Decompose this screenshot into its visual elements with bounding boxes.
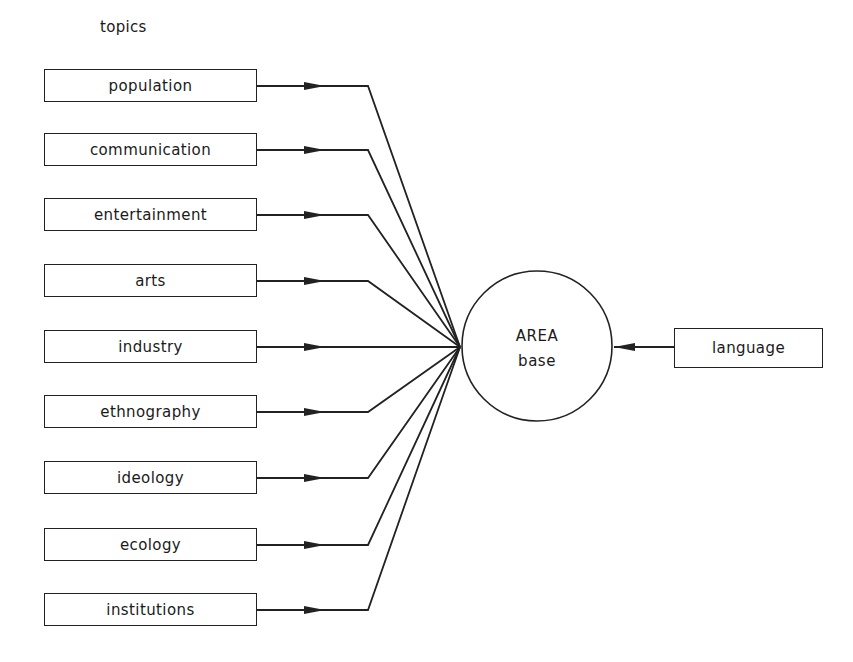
connector-line [257,150,460,347]
topic-label: ideology [117,469,184,487]
topic-label: communication [90,141,211,159]
topic-label: population [109,77,193,95]
arrow-right-icon [304,82,325,90]
arrow-left-icon [614,343,635,351]
arrow-right-icon [304,277,325,285]
arrow-right-icon [304,146,325,154]
topic-box-arts[interactable]: arts [44,264,257,297]
connector-line [257,86,460,347]
topic-box-ecology[interactable]: ecology [44,528,257,561]
topic-label: ethnography [100,403,201,421]
topic-box-population[interactable]: population [44,69,257,102]
hub-label-base: base [487,352,587,370]
arrow-right-icon [304,211,325,219]
connector-line [257,347,460,545]
topic-box-entertainment[interactable]: entertainment [44,198,257,231]
area-base-circle[interactable] [462,271,612,421]
topic-box-institutions[interactable]: institutions [44,593,257,626]
topic-label: arts [135,272,166,290]
topic-box-ethnography[interactable]: ethnography [44,395,257,428]
connector-line [257,347,460,412]
arrow-right-icon [304,541,325,549]
connector-line [257,281,460,347]
topic-label: ecology [120,536,181,554]
language-label: language [712,339,785,357]
topic-label: entertainment [94,206,207,224]
topic-label: industry [118,338,183,356]
arrow-right-icon [304,343,325,351]
topic-box-industry[interactable]: industry [44,330,257,363]
topics-heading: topics [100,18,147,36]
language-box[interactable]: language [674,328,823,368]
arrow-right-icon [304,474,325,482]
arrow-right-icon [304,408,325,416]
hub-label-area: AREA [487,327,587,345]
arrow-right-icon [304,606,325,614]
topic-box-ideology[interactable]: ideology [44,461,257,494]
topic-label: institutions [106,601,194,619]
topic-box-communication[interactable]: communication [44,133,257,166]
